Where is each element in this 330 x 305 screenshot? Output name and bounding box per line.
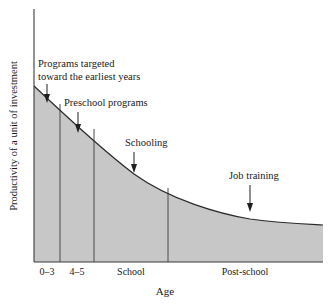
x-tick-label-post-school: Post-school <box>222 266 269 277</box>
x-tick-label-school: School <box>117 266 145 277</box>
annotation-label-preschool-programs: Preschool programs <box>64 97 148 108</box>
annotation-label-programs-targeted-line1: Programs targeted <box>38 58 115 69</box>
annotation-arrow-job-training <box>247 185 253 212</box>
annotation-label-programs-targeted-line2: toward the earliest years <box>38 71 140 82</box>
area-under-curve <box>34 86 323 262</box>
annotation-label-schooling: Schooling <box>125 137 168 148</box>
annotation-arrow-schooling <box>131 152 137 173</box>
x-tick-label-0-3: 0–3 <box>40 266 55 277</box>
y-axis-title: Productivity of a unit of investment <box>8 61 19 211</box>
investment-productivity-figure: Programs targeted toward the earliest ye… <box>0 0 330 305</box>
chart-canvas: Programs targeted toward the earliest ye… <box>0 0 330 305</box>
x-tick-label-4-5: 4–5 <box>70 266 85 277</box>
annotation-label-job-training: Job training <box>229 170 280 181</box>
x-axis-title: Age <box>156 285 174 297</box>
